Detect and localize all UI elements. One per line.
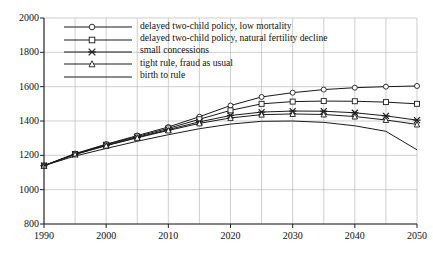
legend-label: small concessions [140, 44, 209, 55]
y-tick-label: 2000 [0, 12, 39, 23]
x-tick-label: 2030 [273, 230, 313, 241]
x-tick-label: 1990 [24, 230, 64, 241]
legend-item: delayed two-child policy, low mortality [62, 19, 327, 31]
y-tick-label: 1000 [0, 184, 39, 195]
x-tick-label: 2050 [397, 230, 433, 241]
x-tick-label: 2010 [148, 230, 188, 241]
legend-label: tight rule, fraud as usual [140, 57, 233, 68]
y-tick-label: 1200 [0, 149, 39, 160]
legend-symbol-cross [62, 44, 134, 56]
y-tick-label: 800 [0, 218, 39, 229]
legend-item: tight rule, fraud as usual [62, 56, 327, 68]
x-tick-label: 2020 [211, 230, 251, 241]
y-tick-label: 1800 [0, 46, 39, 57]
legend-label: birth to rule [140, 69, 185, 80]
chart-legend: delayed two-child policy, low mortalityd… [62, 19, 327, 81]
legend-symbol-triangle [62, 56, 134, 68]
legend-symbol-none [62, 69, 134, 81]
legend-symbol-square [62, 32, 134, 44]
legend-label: delayed two-child policy, natural fertil… [140, 32, 327, 43]
legend-item: small concessions [62, 44, 327, 56]
y-tick-label: 1400 [0, 115, 39, 126]
x-tick-label: 2000 [86, 230, 126, 241]
legend-symbol-circle [62, 19, 134, 31]
chart-figure: 200018001600140012001000800 199020002010… [0, 0, 433, 260]
legend-label: delayed two-child policy, low mortality [140, 20, 292, 31]
legend-item: birth to rule [62, 69, 327, 81]
x-tick-label: 2040 [335, 230, 375, 241]
legend-item: delayed two-child policy, natural fertil… [62, 31, 327, 43]
y-tick-label: 1600 [0, 81, 39, 92]
